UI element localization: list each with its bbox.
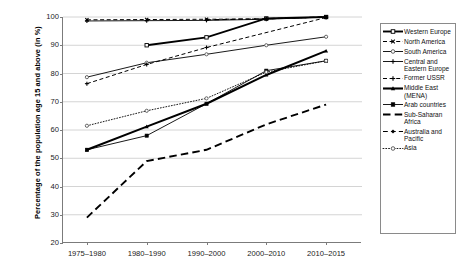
y-axis-tick-label: 70 xyxy=(33,98,59,106)
x-axis-tick xyxy=(266,242,267,245)
legend-label: Asia xyxy=(404,144,417,152)
y-axis-tick-label: 60 xyxy=(33,126,59,134)
chart-figure: Percentage of the population age 15 and … xyxy=(0,0,458,279)
y-axis-tick-label: 30 xyxy=(33,211,59,219)
legend-key-icon xyxy=(382,27,404,36)
legend-label: Middle East (MENA) xyxy=(404,84,453,100)
legend-item[interactable]: Asia xyxy=(382,144,453,153)
legend-key-icon xyxy=(382,100,404,109)
x-axis-tick xyxy=(147,242,148,245)
legend-item[interactable]: Australia and Pacific xyxy=(382,127,453,143)
legend-key-icon xyxy=(382,144,404,153)
legend-label: Central and Eastern Europe xyxy=(404,57,453,73)
plot-area: 20304050607080901001975–19801980–1990199… xyxy=(62,17,361,243)
legend-label: North America xyxy=(404,37,445,45)
y-axis-tick-label: 50 xyxy=(33,154,59,162)
legend-item[interactable]: Western Europe xyxy=(382,27,453,36)
y-axis-tick xyxy=(60,187,63,188)
series-sub-saharan-africa xyxy=(87,105,326,218)
y-axis-tick xyxy=(60,158,63,159)
y-axis-tick xyxy=(60,102,63,103)
legend-key-icon xyxy=(382,47,404,56)
y-axis-tick xyxy=(60,215,63,216)
y-axis-tick xyxy=(60,74,63,75)
x-axis-tick xyxy=(207,242,208,245)
legend-key-icon xyxy=(382,110,404,119)
legend-label: Arab countries xyxy=(404,100,446,108)
x-axis-tick-label: 2010–2015 xyxy=(291,250,361,258)
legend-label: Sub-Saharan Africa xyxy=(404,110,453,126)
legend-key-icon xyxy=(382,84,404,93)
legend-item[interactable]: Sub-Saharan Africa xyxy=(382,110,453,126)
series-former-ussr xyxy=(85,16,328,86)
y-axis-tick xyxy=(60,130,63,131)
x-axis-tick xyxy=(326,242,327,245)
legend-item[interactable]: North America xyxy=(382,37,453,46)
y-axis-tick xyxy=(60,17,63,18)
legend-item[interactable]: South America xyxy=(382,47,453,56)
legend-key-icon xyxy=(382,37,404,46)
legend-key-icon xyxy=(382,74,404,83)
legend-label: Western Europe xyxy=(404,27,451,35)
chart-legend: Western EuropeNorth AmericaSouth America… xyxy=(380,23,456,234)
y-axis-tick xyxy=(60,243,63,244)
y-axis-tick-label: 100 xyxy=(33,13,59,21)
legend-key-icon xyxy=(382,127,404,136)
y-axis-tick-label: 20 xyxy=(33,239,59,247)
legend-key-icon xyxy=(382,57,404,66)
legend-item[interactable]: Middle East (MENA) xyxy=(382,84,453,100)
x-axis-tick xyxy=(87,242,88,245)
y-axis-tick xyxy=(60,45,63,46)
y-axis-tick-label: 40 xyxy=(33,183,59,191)
y-axis-tick-label: 80 xyxy=(33,70,59,78)
legend-item[interactable]: Arab countries xyxy=(382,100,453,109)
legend-item[interactable]: Former USSR xyxy=(382,74,453,83)
legend-label: Australia and Pacific xyxy=(404,127,453,143)
legend-label: South America xyxy=(404,47,446,55)
y-axis-tick-label: 90 xyxy=(33,41,59,49)
legend-item[interactable]: Central and Eastern Europe xyxy=(382,57,453,73)
legend-label: Former USSR xyxy=(404,74,445,82)
series-asia xyxy=(85,59,327,127)
